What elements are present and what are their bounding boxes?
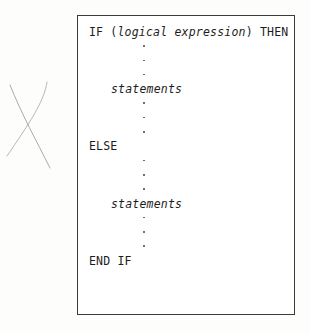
ellipsis-dot-icon [143,74,145,76]
code-line-end-if: END IF [89,254,290,268]
ellipsis-dot-icon [143,102,145,104]
ellipsis-row [89,239,290,253]
ellipsis-dot-icon [143,60,145,62]
ellipsis-row [89,68,290,82]
ellipsis-dot-icon [143,231,145,233]
ellipsis-row [89,125,290,139]
ellipsis-row [89,211,290,225]
ellipsis-dot-icon [143,174,145,176]
ellipsis-row [89,168,290,182]
code-line-else-statements: statements [89,197,290,211]
code-line-else: ELSE [89,139,290,153]
ellipsis-row [89,111,290,125]
then-keyword: ) THEN [246,25,289,39]
ellipsis-dot-icon [143,45,145,47]
ellipsis-row [89,96,290,110]
ellipsis-row [89,154,290,168]
ellipsis-row [89,225,290,239]
code-block-border: IF (logical expression) THEN statements … [77,15,295,315]
ellipsis-dot-icon [143,131,145,133]
ellipsis-row [89,182,290,196]
if-keyword: IF ( [89,25,118,39]
ellipsis-dot-icon [143,245,145,247]
code-line-then-statements: statements [89,82,290,96]
ellipsis-row [89,54,290,68]
ellipsis-dot-icon [143,117,145,119]
ellipsis-dot-icon [143,160,145,162]
code-line-if: IF (logical expression) THEN [89,25,290,39]
ellipsis-dot-icon [143,188,145,190]
ellipsis-row [89,39,290,53]
code-listing: IF (logical expression) THEN statements … [89,25,290,310]
ellipsis-dot-icon [143,217,145,219]
if-condition: logical expression [118,25,246,39]
